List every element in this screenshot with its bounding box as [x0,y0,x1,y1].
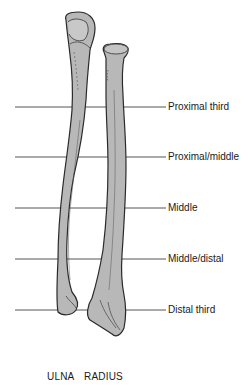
level-label-proximal-third: Proximal third [168,102,229,112]
level-lines [15,107,166,310]
level-label-middle-distal: Middle/distal [168,254,224,264]
ulna-bone [57,12,95,315]
level-label-proximal-middle: Proximal/middle [168,152,239,162]
level-label-middle: Middle [168,203,197,213]
level-label-distal-third: Distal third [168,305,215,315]
forearm-bones-diagram [0,0,250,386]
radius-bone [88,44,129,336]
bone-label-ulna: ULNA [47,372,74,382]
bone-label-radius: RADIUS [84,372,123,382]
